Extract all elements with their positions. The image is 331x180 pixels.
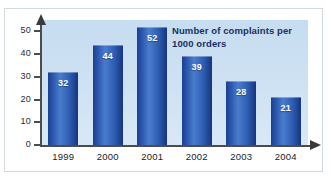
y-axis-tick [34, 76, 41, 78]
bar-value-label: 44 [93, 51, 123, 61]
bar-value-label: 28 [226, 87, 256, 97]
y-axis-tick-label: 0 [5, 140, 31, 149]
chart-title: Number of complaints per 1000 orders [172, 24, 314, 50]
x-axis-tick-label: 2001 [129, 151, 175, 162]
y-axis-tick [34, 144, 41, 146]
bar-value-label: 39 [182, 62, 212, 72]
y-axis-line [40, 23, 42, 146]
bar: 28 [226, 81, 256, 145]
bar-value-label: 52 [137, 33, 167, 43]
bar-value-label: 21 [271, 103, 301, 113]
y-axis-tick-label: 50 [5, 26, 31, 35]
y-axis-tick [34, 121, 41, 123]
bar: 32 [48, 72, 78, 145]
y-axis-arrow-icon [36, 14, 46, 25]
chart-title-line-1: Number of complaints per [172, 24, 314, 37]
bar: 44 [93, 45, 123, 145]
x-axis-line [40, 145, 312, 147]
y-axis-tick [34, 30, 41, 32]
x-axis-tick-label: 1999 [40, 151, 86, 162]
bar-value-label: 32 [48, 78, 78, 88]
chart-title-line-2: 1000 orders [172, 37, 314, 50]
y-axis-tick-label: 30 [5, 72, 31, 81]
chart-frame: 01020304050 324452392821 199920002001200… [4, 8, 323, 172]
y-axis-tick-label: 20 [5, 95, 31, 104]
y-axis-tick-label: 10 [5, 117, 31, 126]
bar: 39 [182, 56, 212, 145]
x-axis-tick-label: 2004 [263, 151, 309, 162]
y-axis-tick [34, 53, 41, 55]
x-axis-tick-label: 2003 [218, 151, 264, 162]
x-axis-tick-label: 2000 [85, 151, 131, 162]
bar: 21 [271, 97, 301, 145]
x-axis-tick-label: 2002 [174, 151, 220, 162]
y-axis-tick-label: 40 [5, 49, 31, 58]
y-axis-tick [34, 99, 41, 101]
bar: 52 [137, 27, 167, 145]
x-axis-arrow-icon [310, 140, 321, 150]
